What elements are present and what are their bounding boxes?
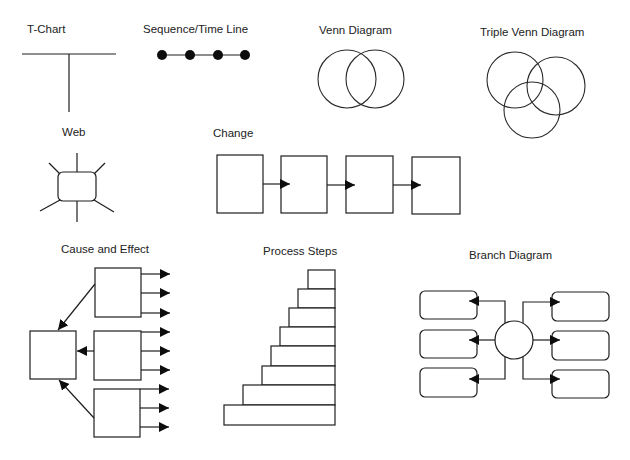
process-step (308, 270, 335, 289)
web-spoke (49, 163, 60, 174)
change-organizer: Change (213, 127, 460, 214)
process-steps-label: Process Steps (263, 245, 337, 257)
t-chart-label: T-Chart (27, 23, 66, 35)
cause-box (95, 268, 141, 317)
branch-box-left (420, 368, 477, 397)
web-spoke (94, 163, 105, 174)
process-step (224, 405, 335, 425)
triple-venn-circle-a (487, 52, 543, 108)
web-organizer: Web (40, 126, 114, 222)
graphic-organizers-sheet: T-Chart Sequence/Time Line Venn Diagram … (0, 0, 630, 460)
venn-circle-left (318, 50, 376, 108)
branch-hub-circle (495, 321, 533, 359)
cause-box (94, 331, 141, 380)
triple-venn-organizer: Triple Venn Diagram (480, 26, 585, 138)
t-chart-organizer: T-Chart (22, 23, 116, 112)
process-step (271, 346, 335, 366)
venn-organizer: Venn Diagram (318, 24, 404, 108)
cause-effect-organizer: Cause and Effect (30, 243, 170, 437)
effect-box (30, 331, 76, 379)
cause-to-effect-arrow (59, 380, 94, 418)
branch-box-left (420, 330, 477, 358)
web-spoke (94, 200, 114, 212)
branch-box-left (420, 291, 477, 319)
branch-box-right (552, 292, 609, 321)
process-step (298, 289, 335, 308)
triple-venn-label: Triple Venn Diagram (480, 26, 584, 38)
timeline-dot (213, 50, 223, 60)
change-label: Change (213, 127, 253, 139)
triple-venn-circle-b (527, 57, 585, 115)
process-step (262, 366, 335, 385)
timeline-dot (185, 50, 195, 60)
branch-label: Branch Diagram (469, 249, 552, 261)
branch-box-right (552, 370, 609, 398)
process-step (243, 385, 335, 405)
change-box (217, 155, 263, 213)
web-spoke (40, 200, 60, 211)
sequence-organizer: Sequence/Time Line (143, 23, 250, 60)
venn-label: Venn Diagram (319, 24, 392, 36)
branch-organizer: Branch Diagram (420, 249, 609, 398)
cause-to-effect-arrow (58, 284, 95, 330)
branch-box-right (552, 331, 609, 360)
cause-effect-label: Cause and Effect (61, 243, 150, 255)
sequence-label: Sequence/Time Line (143, 23, 248, 35)
venn-circle-right (346, 50, 404, 108)
cause-box (94, 389, 140, 437)
process-steps-organizer: Process Steps (224, 245, 337, 425)
web-center-box (58, 172, 96, 201)
process-step (289, 308, 335, 327)
timeline-dot (157, 50, 167, 60)
timeline-dot (240, 50, 250, 60)
web-label: Web (62, 126, 85, 138)
process-step (280, 327, 335, 346)
triple-venn-circle-c (504, 82, 560, 138)
